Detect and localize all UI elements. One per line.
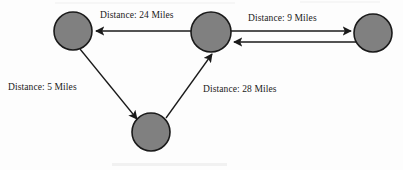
graph-diagram: Distance: 24 Miles Distance: 9 Miles Dis…	[0, 0, 403, 170]
edge-left-to-bottom	[80, 49, 137, 119]
center-node[interactable]	[191, 12, 231, 52]
right-node[interactable]	[354, 14, 392, 52]
edge-label-center-to-left: Distance: 24 Miles	[100, 10, 174, 21]
bottom-node[interactable]	[132, 113, 170, 151]
edge-label-left-to-bottom: Distance: 5 Miles	[8, 82, 77, 93]
edge-label-center-right-pair: Distance: 9 Miles	[248, 13, 317, 24]
left-node[interactable]	[54, 12, 92, 50]
edge-label-bottom-to-center: Distance: 28 Miles	[203, 84, 277, 95]
